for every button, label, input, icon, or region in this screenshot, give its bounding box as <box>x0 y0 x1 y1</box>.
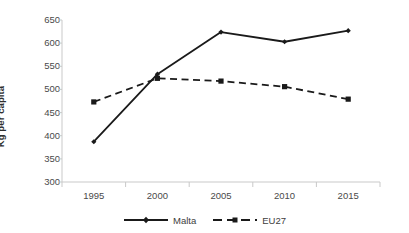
legend-item-eu27[interactable]: EU27 <box>212 215 286 226</box>
data-point <box>155 76 160 81</box>
data-point <box>346 28 351 33</box>
series-line-malta <box>94 31 348 142</box>
data-point <box>282 39 287 44</box>
x-tick-label: 1995 <box>64 190 124 201</box>
x-tick-label: 2010 <box>255 190 315 201</box>
legend-label-eu27: EU27 <box>262 215 286 226</box>
x-axis-tick-labels: 1995 2000 2005 2010 2015 <box>62 190 380 206</box>
data-point <box>346 97 351 102</box>
data-point <box>282 84 287 89</box>
series-markers-eu27 <box>91 76 351 105</box>
data-point <box>91 99 96 104</box>
x-tick-label: 2015 <box>318 190 378 201</box>
data-point <box>218 78 223 83</box>
chart-legend: Malta EU27 <box>0 210 409 230</box>
series-markers-malta <box>91 28 351 144</box>
line-chart: Kg per capita 650 600 550 500 450 400 35… <box>0 0 409 233</box>
legend-swatch-malta-icon <box>123 215 169 225</box>
x-tick-label: 2005 <box>191 190 251 201</box>
x-axis-ticks <box>62 182 380 187</box>
y-axis-ticks <box>58 20 62 182</box>
legend-item-malta[interactable]: Malta <box>123 215 196 226</box>
legend-label-malta: Malta <box>173 215 196 226</box>
legend-swatch-eu27-icon <box>212 215 258 225</box>
x-tick-label: 2000 <box>127 190 187 201</box>
